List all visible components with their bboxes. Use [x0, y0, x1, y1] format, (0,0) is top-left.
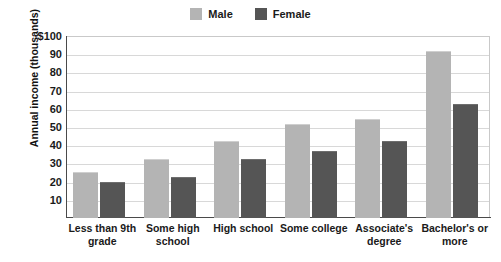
bars-layer	[67, 36, 490, 218]
y-tick-label: 20	[4, 176, 62, 188]
bar-female	[453, 104, 478, 218]
y-tick-label: 10	[4, 194, 62, 206]
y-tick-label: 60	[4, 103, 62, 115]
legend-label-female: Female	[273, 8, 311, 20]
legend-swatch-male	[190, 8, 202, 20]
x-label: Bachelor's or more	[414, 222, 497, 248]
y-tick-label: 40	[4, 139, 62, 151]
bar-male	[144, 159, 169, 218]
chart-legend: Male Female	[0, 8, 501, 20]
legend-item-male: Male	[190, 8, 232, 20]
bar-female	[241, 159, 266, 218]
bar-male	[285, 124, 310, 218]
legend-item-female: Female	[255, 8, 311, 20]
y-tick-label: 80	[4, 66, 62, 78]
bar-male	[355, 119, 380, 218]
bar-group	[420, 36, 491, 218]
bar-male	[426, 51, 451, 218]
bar-group	[279, 36, 350, 218]
bar-female	[382, 141, 407, 218]
bar-male	[214, 141, 239, 218]
y-axis-tick-labels: 102030405060708090$100	[0, 0, 62, 262]
legend-swatch-female	[255, 8, 267, 20]
legend-label-male: Male	[208, 8, 232, 20]
bar-group	[67, 36, 138, 218]
bar-group	[208, 36, 279, 218]
bar-group	[138, 36, 209, 218]
bar-group	[349, 36, 420, 218]
y-tick-label: 70	[4, 85, 62, 97]
bar-chart: Male Female Annual income (thousands) 10…	[0, 0, 501, 262]
y-tick-label: 50	[4, 121, 62, 133]
bar-female	[100, 182, 125, 218]
y-tick-label: $100	[4, 30, 62, 42]
bar-male	[73, 172, 98, 219]
bar-female	[312, 151, 337, 218]
y-tick-label: 30	[4, 157, 62, 169]
bar-female	[171, 177, 196, 218]
x-axis-category-labels: Less than 9th gradeSome high schoolHigh …	[67, 222, 490, 262]
y-tick-label: 90	[4, 48, 62, 60]
